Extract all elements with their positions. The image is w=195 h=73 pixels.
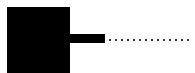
dot	[163, 39, 165, 41]
dot	[187, 39, 189, 41]
dot	[157, 39, 159, 41]
dot	[127, 39, 129, 41]
dot	[145, 39, 147, 41]
dot	[121, 39, 123, 41]
black-square-block	[7, 7, 70, 73]
dot	[139, 39, 141, 41]
dot	[151, 39, 153, 41]
dot	[181, 39, 183, 41]
dotted-line	[109, 39, 189, 41]
dot	[169, 39, 171, 41]
dot	[109, 39, 111, 41]
dot	[133, 39, 135, 41]
connector-bar	[68, 34, 105, 43]
dot	[175, 39, 177, 41]
dot	[115, 39, 117, 41]
